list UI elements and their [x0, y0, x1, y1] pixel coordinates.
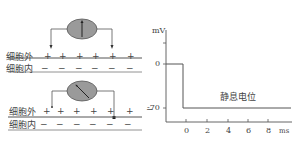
charge-plus: + — [126, 106, 134, 116]
outside-label: 细胞外 — [9, 107, 36, 117]
charge-plus: + — [107, 106, 115, 116]
y-axis-label: mV — [152, 26, 165, 35]
inside-label: 细胞内 — [6, 64, 33, 74]
charge-minus: − — [124, 119, 132, 129]
x-tick-label: 8 — [266, 126, 271, 135]
charge-plus: + — [59, 51, 67, 61]
charge-plus: + — [43, 106, 51, 116]
charge-minus: − — [75, 63, 83, 73]
charge-minus: − — [106, 119, 114, 129]
charge-minus: − — [41, 63, 49, 73]
y-tick-label: 0 — [155, 59, 160, 68]
x-tick-label: 2 — [205, 126, 210, 135]
x-tick-label: 6 — [246, 126, 251, 135]
electrode-wire-right — [97, 29, 112, 47]
charge-minus: − — [58, 63, 66, 73]
electrode-wire-left — [52, 91, 67, 106]
electrode-tip — [51, 106, 53, 108]
charge-minus: − — [108, 63, 116, 73]
charge-plus: + — [73, 106, 81, 116]
charge-minus: − — [89, 119, 97, 129]
x-axis-label: ms — [279, 127, 289, 136]
inside-label: 细胞内 — [9, 120, 36, 130]
charge-plus: + — [127, 51, 135, 61]
potential-chart — [163, 30, 292, 122]
charge-plus: + — [44, 51, 52, 61]
electrode-arrow-icon — [50, 45, 53, 49]
electrode-wire-left — [51, 29, 67, 47]
outside-label: 细胞外 — [6, 52, 33, 62]
charge-plus: + — [57, 106, 65, 116]
charge-plus: + — [76, 51, 84, 61]
charge-minus: − — [40, 119, 48, 129]
x-tick-label: 0 — [184, 126, 189, 135]
electrode-arrow-icon — [111, 45, 114, 49]
resting-potential-annotation: 静息电位 — [220, 92, 256, 102]
charge-plus: + — [92, 51, 100, 61]
y-tick-label: -70 — [147, 103, 160, 112]
charge-plus: + — [109, 51, 117, 61]
charge-minus: − — [56, 119, 64, 129]
charge-minus: − — [91, 63, 99, 73]
charge-minus: − — [73, 119, 81, 129]
x-tick-label: 4 — [226, 126, 231, 135]
charge-plus: + — [90, 106, 98, 116]
charge-minus: − — [126, 63, 134, 73]
